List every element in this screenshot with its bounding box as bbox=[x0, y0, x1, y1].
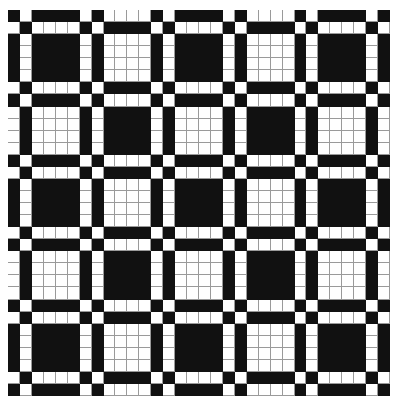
dark-cell bbox=[223, 107, 235, 119]
dark-cell bbox=[306, 131, 318, 143]
light-cell bbox=[8, 263, 20, 275]
dark-cell bbox=[175, 215, 187, 227]
dark-cell bbox=[378, 155, 390, 167]
dark-cell bbox=[187, 70, 199, 82]
light-cell bbox=[68, 82, 80, 94]
light-cell bbox=[80, 34, 92, 46]
dark-cell bbox=[211, 10, 223, 22]
light-cell bbox=[175, 22, 187, 34]
light-cell bbox=[32, 227, 44, 239]
light-cell bbox=[283, 155, 295, 167]
dark-cell bbox=[20, 312, 32, 324]
dark-cell bbox=[127, 312, 139, 324]
dark-cell bbox=[127, 251, 139, 263]
light-cell bbox=[92, 263, 104, 275]
dark-cell bbox=[330, 34, 342, 46]
light-cell bbox=[247, 155, 259, 167]
dark-cell bbox=[211, 384, 223, 396]
dark-cell bbox=[127, 167, 139, 179]
light-cell bbox=[20, 360, 32, 372]
light-cell bbox=[104, 203, 116, 215]
light-cell bbox=[354, 143, 366, 155]
dark-cell bbox=[342, 191, 354, 203]
light-cell bbox=[8, 312, 20, 324]
light-cell bbox=[259, 58, 271, 70]
light-cell bbox=[366, 46, 378, 58]
light-cell bbox=[151, 372, 163, 384]
dark-cell bbox=[56, 300, 68, 312]
dark-cell bbox=[20, 372, 32, 384]
dark-cell bbox=[151, 336, 163, 348]
dark-cell bbox=[56, 155, 68, 167]
dark-cell bbox=[56, 384, 68, 396]
dark-cell bbox=[354, 34, 366, 46]
dark-cell bbox=[354, 10, 366, 22]
light-cell bbox=[104, 10, 116, 22]
light-cell bbox=[330, 82, 342, 94]
dark-cell bbox=[20, 251, 32, 263]
light-cell bbox=[8, 275, 20, 287]
dark-cell bbox=[80, 82, 92, 94]
dark-cell bbox=[223, 82, 235, 94]
light-cell bbox=[139, 239, 151, 251]
dark-cell bbox=[187, 94, 199, 106]
dark-cell bbox=[223, 131, 235, 143]
light-cell bbox=[115, 94, 127, 106]
dark-cell bbox=[92, 215, 104, 227]
light-cell bbox=[211, 143, 223, 155]
light-cell bbox=[104, 239, 116, 251]
dark-cell bbox=[295, 348, 307, 360]
dark-cell bbox=[187, 300, 199, 312]
light-cell bbox=[8, 131, 20, 143]
dark-cell bbox=[32, 215, 44, 227]
dark-cell bbox=[199, 70, 211, 82]
dark-cell bbox=[235, 336, 247, 348]
dark-cell bbox=[199, 155, 211, 167]
dark-cell bbox=[366, 167, 378, 179]
dark-cell bbox=[259, 167, 271, 179]
light-cell bbox=[354, 227, 366, 239]
dark-cell bbox=[8, 179, 20, 191]
light-cell bbox=[20, 191, 32, 203]
dark-cell bbox=[247, 143, 259, 155]
dark-cell bbox=[271, 287, 283, 299]
light-cell bbox=[283, 58, 295, 70]
dark-cell bbox=[378, 384, 390, 396]
light-cell bbox=[32, 251, 44, 263]
light-cell bbox=[318, 263, 330, 275]
light-cell bbox=[20, 10, 32, 22]
dark-cell bbox=[115, 312, 127, 324]
dark-cell bbox=[8, 203, 20, 215]
light-cell bbox=[187, 119, 199, 131]
dark-cell bbox=[295, 58, 307, 70]
light-cell bbox=[235, 119, 247, 131]
dark-cell bbox=[223, 143, 235, 155]
light-cell bbox=[306, 10, 318, 22]
dark-cell bbox=[330, 10, 342, 22]
light-cell bbox=[104, 179, 116, 191]
light-cell bbox=[318, 251, 330, 263]
light-cell bbox=[56, 372, 68, 384]
dark-cell bbox=[259, 82, 271, 94]
light-cell bbox=[295, 372, 307, 384]
light-cell bbox=[378, 143, 390, 155]
light-cell bbox=[163, 300, 175, 312]
light-cell bbox=[354, 287, 366, 299]
light-cell bbox=[104, 191, 116, 203]
light-cell bbox=[223, 46, 235, 58]
light-cell bbox=[139, 360, 151, 372]
dark-cell bbox=[80, 143, 92, 155]
light-cell bbox=[20, 179, 32, 191]
dark-cell bbox=[92, 10, 104, 22]
light-cell bbox=[104, 215, 116, 227]
light-cell bbox=[354, 167, 366, 179]
dark-cell bbox=[56, 191, 68, 203]
light-cell bbox=[199, 372, 211, 384]
dark-cell bbox=[44, 384, 56, 396]
light-cell bbox=[271, 215, 283, 227]
dark-cell bbox=[44, 360, 56, 372]
dark-cell bbox=[32, 384, 44, 396]
dark-cell bbox=[235, 348, 247, 360]
dark-cell bbox=[223, 287, 235, 299]
light-cell bbox=[342, 287, 354, 299]
